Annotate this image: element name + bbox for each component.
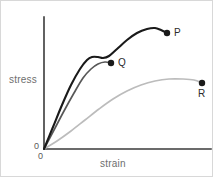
curve-P (44, 28, 167, 149)
curve-R (44, 79, 202, 149)
axes-group (44, 17, 211, 149)
endpoint-marker-Q (108, 60, 114, 66)
y-axis-label: stress (9, 74, 37, 85)
curves-group (44, 28, 202, 149)
stress-strain-figure: stress strain 0 0 P Q R (0, 0, 213, 177)
origin-label-bottom: 0 (38, 151, 43, 161)
curve-endpoint-label-r: R (198, 88, 205, 99)
endpoint-marker-R (199, 80, 205, 86)
curve-endpoint-label-q: Q (118, 57, 126, 68)
x-axis-label: strain (100, 158, 126, 169)
plot-canvas (1, 1, 213, 177)
origin-label-left: 0 (34, 141, 39, 151)
curve-endpoint-label-p: P (174, 27, 181, 38)
endpoint-marker-P (164, 30, 170, 36)
